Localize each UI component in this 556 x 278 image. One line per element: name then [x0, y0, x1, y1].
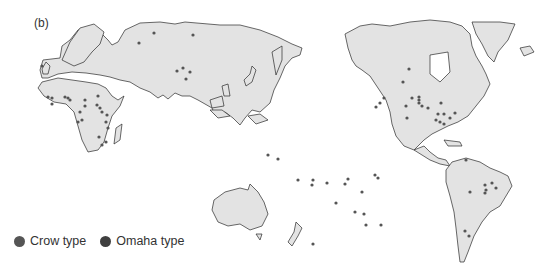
data-point: [343, 182, 346, 185]
crow-type-marker-icon: [14, 236, 25, 247]
data-point: [467, 234, 470, 237]
tasmania: [256, 234, 262, 240]
data-point: [362, 212, 365, 215]
data-point: [442, 112, 445, 115]
data-point: [50, 102, 53, 105]
data-point: [46, 95, 49, 98]
data-point: [76, 120, 79, 123]
data-point: [325, 181, 328, 184]
data-point: [83, 98, 86, 101]
data-point: [374, 105, 377, 108]
legend-label: Crow type: [30, 234, 86, 248]
data-point: [442, 122, 445, 125]
data-point: [50, 96, 53, 99]
data-point: [463, 229, 466, 232]
data-point: [334, 201, 337, 204]
north-america: [345, 20, 490, 150]
data-point: [188, 70, 191, 73]
new-zealand: [288, 222, 302, 246]
data-point: [382, 96, 385, 99]
data-point: [364, 223, 367, 226]
data-point: [373, 173, 376, 176]
data-point: [100, 110, 103, 113]
data-point: [426, 106, 429, 109]
data-point: [276, 157, 279, 160]
data-point: [410, 96, 413, 99]
legend-item-omaha: Omaha type: [100, 234, 184, 248]
data-point: [417, 98, 420, 101]
data-point: [83, 104, 86, 107]
data-point: [401, 80, 404, 83]
data-point: [346, 177, 349, 180]
data-point: [104, 120, 107, 123]
greenland: [472, 22, 515, 62]
data-point: [453, 111, 456, 114]
data-point: [137, 41, 140, 44]
data-point: [417, 101, 420, 104]
data-point: [181, 66, 184, 69]
data-point: [96, 94, 99, 97]
legend-item-crow: Crow type: [14, 234, 86, 248]
data-point: [97, 135, 100, 138]
central-america: [414, 146, 450, 166]
madagascar: [114, 124, 122, 144]
caribbean: [444, 140, 462, 146]
south-america: [446, 158, 512, 262]
data-point: [407, 67, 410, 70]
data-point: [266, 153, 269, 156]
data-point: [490, 181, 493, 184]
data-point: [436, 112, 439, 115]
data-point: [353, 210, 356, 213]
data-point: [311, 242, 314, 245]
new-guinea: [248, 114, 268, 124]
legend: Crow type Omaha type: [14, 234, 198, 248]
data-point: [191, 33, 194, 36]
data-point: [494, 186, 497, 189]
data-point: [439, 101, 442, 104]
data-point: [296, 178, 299, 181]
data-point: [175, 69, 178, 72]
data-point: [378, 101, 381, 104]
africa: [38, 78, 124, 152]
data-point: [105, 113, 108, 116]
data-point: [448, 116, 451, 119]
data-point: [106, 126, 109, 129]
data-point: [63, 95, 66, 98]
data-point: [360, 190, 363, 193]
data-point: [438, 120, 441, 123]
data-point: [468, 190, 471, 193]
data-point: [405, 116, 408, 119]
data-point: [184, 77, 187, 80]
data-point: [80, 118, 83, 121]
data-point: [420, 104, 423, 107]
data-point: [68, 98, 71, 101]
data-point: [434, 118, 437, 121]
data-point: [311, 178, 314, 181]
data-point: [484, 188, 487, 191]
data-point: [78, 110, 81, 113]
data-point: [104, 140, 107, 143]
data-point: [310, 183, 313, 186]
omaha-type-marker-icon: [100, 236, 111, 247]
data-point: [483, 191, 486, 194]
data-point: [404, 104, 407, 107]
legend-label: Omaha type: [116, 234, 184, 248]
data-point: [152, 31, 155, 34]
australia: [212, 184, 268, 230]
data-point: [98, 106, 101, 109]
data-point: [483, 183, 486, 186]
data-point: [417, 95, 420, 98]
data-point: [95, 103, 98, 106]
iceland: [520, 46, 534, 56]
data-point: [100, 143, 103, 146]
data-point: [464, 158, 467, 161]
data-point: [376, 176, 379, 179]
data-point: [40, 64, 43, 67]
data-point: [379, 223, 382, 226]
